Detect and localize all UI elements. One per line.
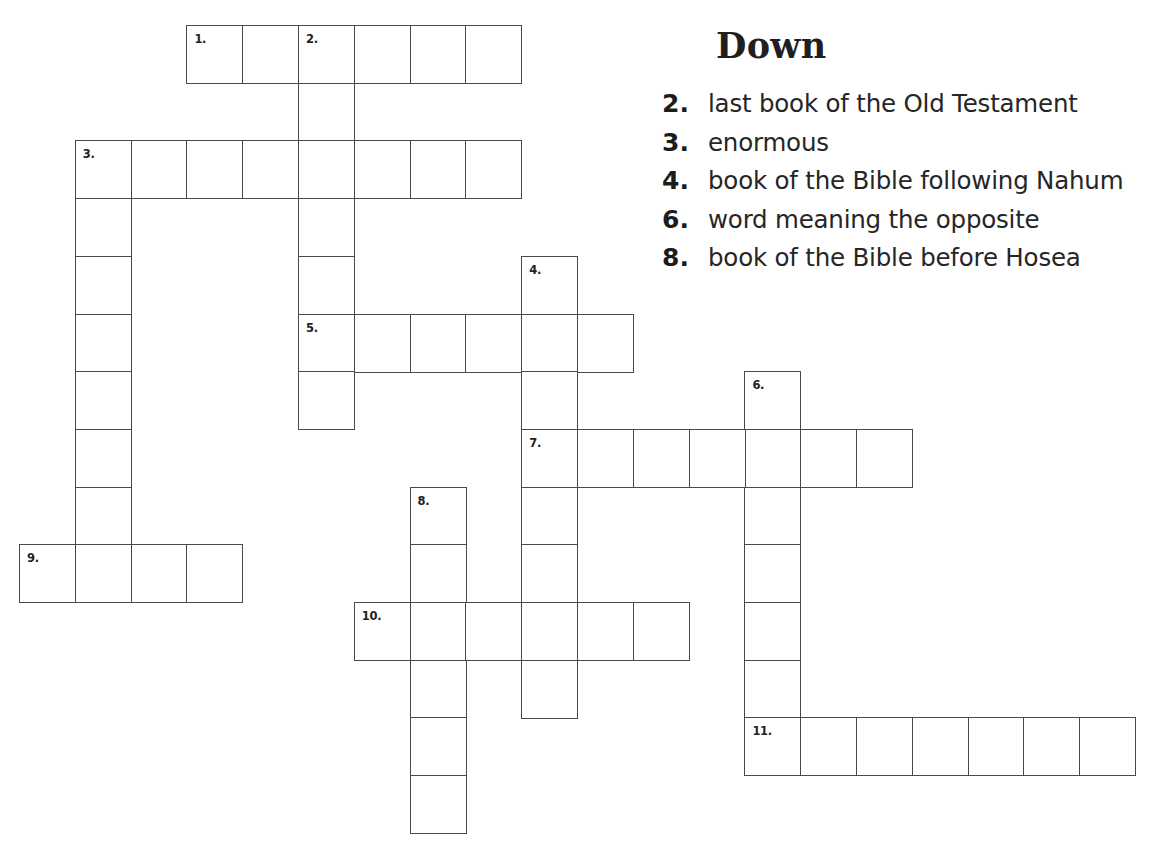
crossword-cell[interactable] [410, 544, 467, 603]
clue-text: book of the Bible before Hosea [708, 243, 1081, 272]
crossword-cell[interactable] [410, 660, 467, 719]
down-clue-6: 6.word meaning the opposite [662, 200, 1123, 239]
crossword-cell[interactable] [354, 25, 411, 84]
cell-clue-number: 10. [362, 609, 381, 623]
crossword-cell[interactable] [856, 429, 913, 488]
crossword-cell[interactable] [521, 660, 578, 719]
crossword-cell[interactable] [1079, 717, 1136, 776]
crossword-cell[interactable] [800, 717, 857, 776]
clue-number: 3. [662, 124, 708, 162]
crossword-cell[interactable] [298, 140, 355, 199]
crossword-cell[interactable] [410, 140, 467, 199]
crossword-cell[interactable]: 3. [75, 140, 132, 199]
cell-clue-number: 4. [529, 263, 541, 277]
crossword-cell[interactable] [633, 602, 690, 661]
crossword-cell[interactable] [75, 256, 132, 315]
down-clue-3: 3.enormous [662, 123, 1123, 162]
crossword-cell[interactable] [521, 371, 578, 430]
crossword-cell[interactable]: 8. [410, 487, 467, 546]
clue-text: word meaning the opposite [708, 205, 1040, 234]
crossword-cell[interactable] [465, 602, 522, 661]
cell-clue-number: 8. [418, 494, 430, 508]
clue-number: 4. [662, 162, 708, 200]
crossword-cell[interactable] [465, 314, 522, 373]
down-clue-8: 8.book of the Bible before Hosea [662, 238, 1123, 277]
crossword-cell[interactable] [75, 544, 132, 603]
down-clue-list: 2.last book of the Old Testament 3.enorm… [662, 84, 1123, 277]
crossword-cell[interactable] [410, 25, 467, 84]
crossword-cell[interactable] [75, 487, 132, 546]
crossword-cell[interactable] [689, 429, 746, 488]
crossword-cell[interactable] [410, 717, 467, 776]
crossword-cell[interactable]: 1. [186, 25, 243, 84]
crossword-cell[interactable]: 5. [298, 314, 355, 373]
clue-number: 8. [662, 239, 708, 277]
crossword-cell[interactable] [633, 429, 690, 488]
crossword-cell[interactable]: 9. [19, 544, 76, 603]
cell-clue-number: 11. [752, 724, 771, 738]
cell-clue-number: 2. [306, 32, 318, 46]
clue-text: book of the Bible following Nahum [708, 166, 1123, 195]
crossword-cell[interactable] [131, 544, 188, 603]
crossword-cell[interactable] [298, 83, 355, 142]
crossword-cell[interactable] [744, 602, 801, 661]
clue-text: enormous [708, 128, 829, 157]
crossword-cell[interactable] [521, 314, 578, 373]
crossword-cell[interactable] [800, 429, 857, 488]
crossword-cell[interactable]: 7. [521, 429, 578, 488]
cell-clue-number: 5. [306, 321, 318, 335]
crossword-cell[interactable] [912, 717, 969, 776]
down-clue-4: 4.book of the Bible following Nahum [662, 161, 1123, 200]
cell-clue-number: 3. [83, 147, 95, 161]
crossword-cell[interactable] [186, 544, 243, 603]
crossword-cell[interactable] [354, 314, 411, 373]
cell-clue-number: 9. [27, 551, 39, 565]
crossword-cell[interactable] [744, 660, 801, 719]
crossword-cell[interactable] [354, 140, 411, 199]
cell-clue-number: 6. [752, 378, 764, 392]
cell-clue-number: 7. [529, 436, 541, 450]
crossword-cell[interactable] [577, 429, 634, 488]
crossword-cell[interactable]: 10. [354, 602, 411, 661]
clue-number: 6. [662, 201, 708, 239]
crossword-cell[interactable] [242, 140, 299, 199]
crossword-cell[interactable] [744, 544, 801, 603]
crossword-cell[interactable] [521, 544, 578, 603]
crossword-cell[interactable] [577, 314, 634, 373]
crossword-cell[interactable] [242, 25, 299, 84]
crossword-cell[interactable]: 6. [744, 371, 801, 430]
crossword-cell[interactable] [75, 198, 132, 257]
crossword-cell[interactable] [75, 429, 132, 488]
crossword-cell[interactable] [856, 717, 913, 776]
crossword-cell[interactable] [744, 429, 801, 488]
crossword-cell[interactable]: 2. [298, 25, 355, 84]
crossword-cell[interactable] [298, 198, 355, 257]
crossword-cell[interactable] [968, 717, 1025, 776]
crossword-cell[interactable] [298, 371, 355, 430]
crossword-cell[interactable] [465, 25, 522, 84]
crossword-cell[interactable] [131, 140, 188, 199]
crossword-cell[interactable] [577, 602, 634, 661]
crossword-cell[interactable] [465, 140, 522, 199]
cell-clue-number: 1. [194, 32, 206, 46]
crossword-cell[interactable] [410, 775, 467, 834]
clue-number: 2. [662, 85, 708, 123]
crossword-cell[interactable] [75, 371, 132, 430]
crossword-cell[interactable] [298, 256, 355, 315]
down-clue-2: 2.last book of the Old Testament [662, 84, 1123, 123]
crossword-cell[interactable] [410, 602, 467, 661]
crossword-cell[interactable] [186, 140, 243, 199]
clue-text: last book of the Old Testament [708, 89, 1078, 118]
crossword-cell[interactable] [521, 602, 578, 661]
crossword-cell[interactable]: 11. [744, 717, 801, 776]
crossword-cell[interactable] [75, 314, 132, 373]
crossword-cell[interactable]: 4. [521, 256, 578, 315]
crossword-cell[interactable] [521, 487, 578, 546]
down-clues-title: Down [716, 24, 826, 68]
crossword-cell[interactable] [1023, 717, 1080, 776]
crossword-cell[interactable] [744, 487, 801, 546]
crossword-cell[interactable] [410, 314, 467, 373]
